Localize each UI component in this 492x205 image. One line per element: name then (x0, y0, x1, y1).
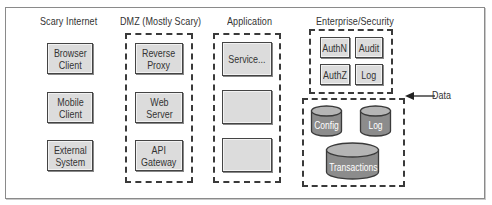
transactions-cylinder: Transactions (325, 142, 380, 180)
data-label: Data (432, 89, 451, 101)
api-gateway-box: API Gateway (135, 140, 183, 171)
box-label: AuthZ (323, 69, 347, 81)
box-label: AuthN (323, 42, 348, 54)
box-label: Browser Client (54, 47, 87, 71)
column-title-scary-internet: Scary Internet (40, 15, 97, 27)
box-label: API Gateway (141, 144, 176, 168)
service-box-3 (222, 138, 272, 172)
database-icon (325, 142, 380, 180)
box-label: Service... (228, 53, 265, 65)
authz-box: AuthZ (320, 64, 350, 85)
box-label: Mobile Client (57, 96, 83, 120)
web-server-box: Web Server (135, 92, 183, 123)
mobile-client-box: Mobile Client (47, 92, 93, 123)
cylinder-label: Config (312, 120, 340, 131)
service-box: Service... (222, 42, 272, 76)
config-cylinder: Config (310, 105, 343, 138)
cylinder-label: Log (361, 120, 389, 131)
authn-box: AuthN (320, 37, 350, 58)
service-box-2 (222, 90, 272, 124)
column-title-application: Application (227, 15, 272, 27)
box-label: External System (54, 144, 87, 168)
log-cylinder: Log (359, 105, 392, 138)
box-label: Reverse Proxy (142, 47, 175, 71)
box-label: Web Server (146, 96, 172, 120)
column-title-dmz: DMZ (Mostly Scary) (120, 15, 201, 27)
box-label: Audit (359, 42, 379, 54)
arrow-left-icon (405, 90, 435, 102)
external-system-box: External System (47, 140, 93, 171)
cylinder-label: Transactions (329, 162, 376, 173)
browser-client-box: Browser Client (47, 43, 93, 74)
reverse-proxy-box: Reverse Proxy (135, 43, 183, 74)
column-title-enterprise-security: Enterprise/Security (316, 15, 394, 27)
log-box: Log (355, 64, 383, 85)
box-label: Log (362, 69, 377, 81)
audit-box: Audit (355, 37, 383, 58)
